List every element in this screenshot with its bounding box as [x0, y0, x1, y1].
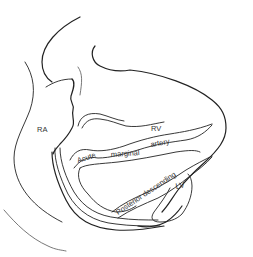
label-ra: RA	[37, 125, 47, 134]
label-rv: RV	[151, 124, 161, 133]
label-posterior-descending: Posterior descending	[114, 170, 177, 217]
label-artery: artery	[150, 137, 171, 149]
label-marginal: marginal	[111, 148, 141, 159]
posterior-loop-inner	[80, 151, 200, 169]
aorta-outline	[42, 17, 80, 82]
ivc-curve	[4, 210, 66, 251]
rca-inner-wall	[60, 148, 158, 220]
heart-diagram: RA RV Acute marginal artery Posterior de…	[0, 0, 253, 257]
atrial-appendage	[53, 79, 74, 154]
right-atrium-outline	[14, 62, 62, 222]
pulmonary-line	[78, 67, 82, 95]
acute-marginal-wall-bottom	[74, 125, 212, 168]
inferior-border	[138, 206, 182, 227]
label-acute: Acute	[76, 150, 97, 164]
